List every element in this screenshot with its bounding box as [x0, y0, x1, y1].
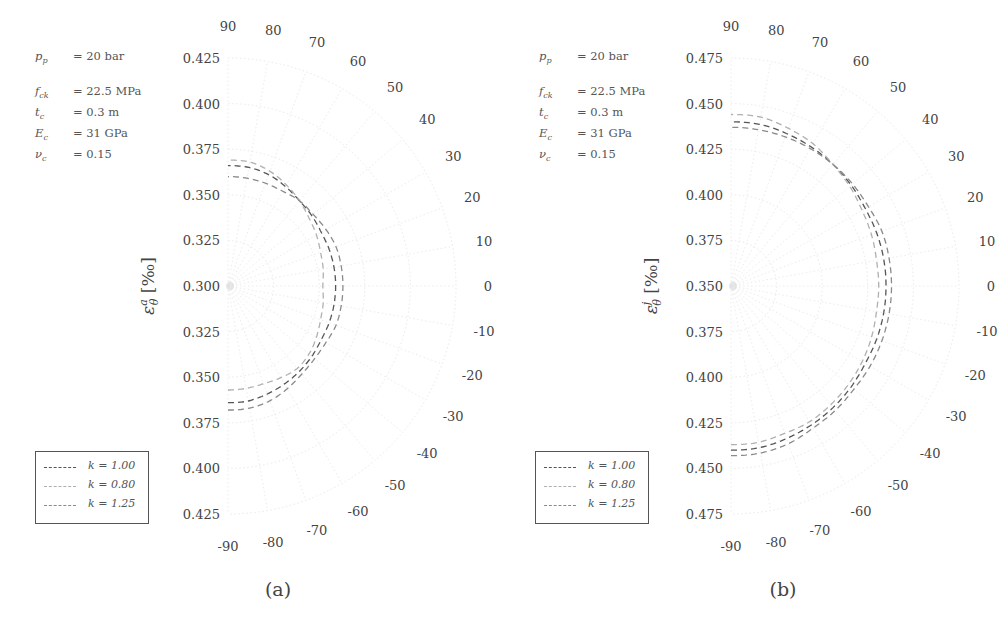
svg-text:90: 90 [220, 19, 237, 34]
series-group [228, 160, 343, 410]
series-group [731, 115, 892, 456]
svg-text:10: 10 [979, 234, 996, 249]
svg-text:0.400: 0.400 [686, 188, 723, 203]
y-axis-label-b: εjθ [‰] [640, 258, 664, 315]
svg-text:-60: -60 [851, 504, 872, 519]
svg-text:70: 70 [812, 35, 829, 50]
svg-text:60: 60 [853, 54, 870, 69]
param-ec: Ec= 31 GPa [35, 123, 141, 144]
svg-text:0.400: 0.400 [183, 97, 220, 112]
dashed-line-swatch [544, 505, 576, 506]
param-nuc: νc= 0.15 [539, 144, 645, 165]
param-pp: pp= 20 bar [539, 46, 645, 67]
series-line-125 [228, 177, 343, 410]
param-pp: pp= 20 bar [35, 46, 141, 67]
legend-item-k100: k = 1.00 [44, 459, 144, 477]
svg-text:0.475: 0.475 [686, 51, 723, 66]
svg-text:0.375: 0.375 [686, 233, 723, 248]
legend-item-k100: k = 1.00 [544, 459, 644, 477]
svg-text:0.350: 0.350 [686, 279, 723, 294]
svg-text:40: 40 [922, 112, 939, 127]
svg-text:30: 30 [948, 149, 965, 164]
param-nuc: νc= 0.15 [35, 144, 141, 165]
svg-text:20: 20 [464, 190, 481, 205]
dashed-line-swatch [44, 467, 76, 468]
svg-text:-40: -40 [417, 446, 438, 461]
dashed-line-swatch [44, 505, 76, 506]
svg-text:40: 40 [419, 112, 436, 127]
svg-text:-40: -40 [920, 446, 941, 461]
svg-text:-10: -10 [474, 324, 495, 339]
svg-text:0: 0 [484, 279, 492, 294]
svg-text:80: 80 [768, 23, 785, 38]
caption-text-cutoff [27, 627, 977, 631]
svg-text:-30: -30 [443, 409, 464, 424]
svg-text:-10: -10 [977, 324, 998, 339]
svg-text:0.300: 0.300 [183, 279, 220, 294]
svg-text:0.450: 0.450 [686, 461, 723, 476]
parameter-list-a: pp= 20 bar fck= 22.5 MPa tc= 0.3 m Ec= 3… [35, 46, 141, 165]
svg-text:0.400: 0.400 [686, 370, 723, 385]
svg-text:-50: -50 [888, 478, 909, 493]
y-axis-label-a: εaθ [‰] [137, 257, 161, 315]
origin-marker [729, 282, 737, 290]
svg-text:-20: -20 [965, 368, 986, 383]
series-line-080 [731, 115, 879, 445]
svg-text:-70: -70 [809, 523, 830, 538]
svg-text:60: 60 [350, 54, 367, 69]
param-tc: tc= 0.3 m [539, 102, 645, 123]
svg-text:-20: -20 [462, 368, 483, 383]
svg-text:0.425: 0.425 [183, 507, 220, 522]
svg-text:20: 20 [967, 190, 984, 205]
svg-text:0.425: 0.425 [183, 51, 220, 66]
svg-text:0.450: 0.450 [686, 97, 723, 112]
dashed-line-swatch [544, 467, 576, 468]
panel-b: 9080706050403020100-10-20-30-40-50-60-70… [504, 0, 1008, 631]
svg-text:-80: -80 [766, 535, 787, 550]
origin-marker [226, 282, 234, 290]
legend-item-k125: k = 1.25 [544, 497, 644, 515]
svg-text:30: 30 [445, 149, 462, 164]
svg-text:0.350: 0.350 [183, 188, 220, 203]
svg-text:80: 80 [265, 23, 282, 38]
dashed-line-swatch [44, 486, 76, 487]
svg-text:-90: -90 [218, 539, 239, 554]
caption-a: (a) [248, 578, 308, 600]
radial-tick-labels: 0.4750.4500.4250.4000.3750.3500.3750.400… [686, 51, 723, 522]
svg-text:0.425: 0.425 [686, 142, 723, 157]
svg-text:70: 70 [309, 35, 326, 50]
caption-b: (b) [753, 578, 813, 600]
panel-a: 9080706050403020100-10-20-30-40-50-60-70… [0, 0, 504, 631]
svg-text:0.375: 0.375 [686, 325, 723, 340]
dashed-line-swatch [544, 486, 576, 487]
legend-b: k = 1.00 k = 0.80 k = 1.25 [535, 451, 649, 524]
svg-text:50: 50 [890, 80, 907, 95]
series-line-080 [228, 160, 323, 390]
svg-text:0.425: 0.425 [686, 416, 723, 431]
radial-tick-labels: 0.4250.4000.3750.3500.3250.3000.3250.350… [183, 51, 220, 522]
svg-text:-50: -50 [385, 478, 406, 493]
param-fck: fck= 22.5 MPa [539, 81, 645, 102]
svg-text:0.375: 0.375 [183, 142, 220, 157]
svg-text:-90: -90 [721, 539, 742, 554]
svg-text:90: 90 [723, 19, 740, 34]
svg-text:-30: -30 [946, 409, 967, 424]
svg-text:50: 50 [387, 80, 404, 95]
svg-text:10: 10 [476, 234, 493, 249]
svg-text:0: 0 [987, 279, 995, 294]
svg-text:-70: -70 [306, 523, 327, 538]
param-tc: tc= 0.3 m [35, 102, 141, 123]
svg-text:0.475: 0.475 [686, 507, 723, 522]
svg-text:0.375: 0.375 [183, 416, 220, 431]
svg-text:-80: -80 [263, 535, 284, 550]
param-ec: Ec= 31 GPa [539, 123, 645, 144]
svg-text:0.325: 0.325 [183, 325, 220, 340]
param-fck: fck= 22.5 MPa [35, 81, 141, 102]
legend-a: k = 1.00 k = 0.80 k = 1.25 [35, 451, 149, 524]
svg-text:-60: -60 [348, 504, 369, 519]
svg-text:0.350: 0.350 [183, 370, 220, 385]
legend-item-k125: k = 1.25 [44, 497, 144, 515]
legend-item-k080: k = 0.80 [44, 478, 144, 496]
parameter-list-b: pp= 20 bar fck= 22.5 MPa tc= 0.3 m Ec= 3… [539, 46, 645, 165]
legend-item-k080: k = 0.80 [544, 478, 644, 496]
